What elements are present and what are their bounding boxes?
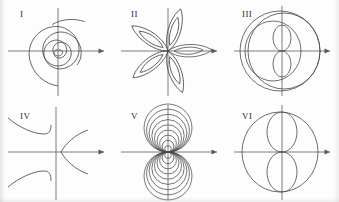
spiral-curve-i [29, 26, 81, 86]
panel-ii [113, 0, 226, 101]
panel-v [113, 101, 226, 202]
axes-i [8, 8, 104, 96]
panel-label-i: I [20, 10, 23, 19]
spiral-outer-tail-i [52, 19, 85, 24]
panel-iv [0, 101, 113, 202]
panel-label-ii: II [131, 10, 138, 19]
x-axis-arrowhead [99, 49, 105, 54]
panel-label-iii: III [242, 10, 252, 19]
panel-label-v: V [131, 112, 138, 121]
polar-curves-figure: I [0, 0, 339, 202]
panel-i [0, 0, 113, 101]
x-axis-arrowhead [325, 49, 331, 54]
x-axis-arrowhead [212, 49, 218, 54]
x-axis-arrowhead [212, 150, 218, 155]
x-axis-arrowhead [99, 150, 105, 155]
panel-label-vi: VI [242, 112, 252, 121]
hyperbola-branches-iv [8, 118, 88, 187]
panel-label-iv: IV [20, 112, 30, 121]
x-axis-arrowhead [325, 150, 331, 155]
